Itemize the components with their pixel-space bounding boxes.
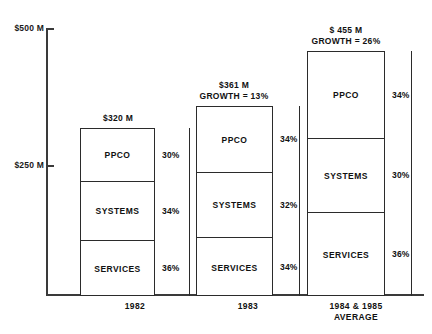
- bar-1982-segment-ppco-label: PPCO: [105, 150, 131, 160]
- bar-1982-total-label: $320 M: [80, 113, 156, 124]
- bar-1984-1985-segment-ppco[interactable]: PPCO: [308, 52, 384, 139]
- bar-1982-segment-systems[interactable]: SYSTEMS: [81, 182, 154, 241]
- bar-1982-segment-services[interactable]: SERVICES: [81, 241, 154, 297]
- bar-1982-percent-column: 30% 34% 36%: [155, 128, 190, 296]
- bar-1984-1985-percent-services: 36%: [392, 249, 410, 259]
- bar-1983-segment-ppco-label: PPCO: [222, 135, 248, 145]
- bar-1983-segment-systems-label: SYSTEMS: [213, 200, 257, 210]
- bar-1983-stack[interactable]: PPCO SYSTEMS SERVICES: [196, 106, 273, 296]
- bar-1983-percent-cell-systems: 32%: [273, 172, 299, 237]
- bar-1982-top-annotation: $320 M: [80, 113, 156, 124]
- category-label-1983: 1983: [196, 301, 300, 312]
- bar-1983-growth-label: GROWTH = 13%: [186, 91, 282, 102]
- bar-1983-percent-systems: 32%: [280, 200, 298, 210]
- bar-1984-1985-segment-services-label: SERVICES: [323, 250, 369, 260]
- bar-1984-1985-segment-services[interactable]: SERVICES: [308, 213, 384, 297]
- y-axis-line: [46, 28, 48, 296]
- category-label-1984-1985-line-1: 1984 & 1985: [300, 301, 412, 312]
- category-label-1982-line-1: 1982: [80, 301, 190, 312]
- bar-1982-percent-services: 36%: [162, 263, 180, 273]
- y-tick-mark-500: [48, 28, 54, 30]
- category-label-1982: 1982: [80, 301, 190, 312]
- bar-1984-1985-total-label: $ 455 M: [297, 25, 395, 36]
- bar-1982-stack[interactable]: PPCO SYSTEMS SERVICES: [80, 128, 155, 296]
- bar-1983-percent-ppco: 34%: [280, 134, 298, 144]
- bar-1983-segment-systems[interactable]: SYSTEMS: [197, 173, 272, 238]
- bar-1984-1985-percent-ppco: 34%: [392, 90, 410, 100]
- bar-1984-1985-stack[interactable]: PPCO SYSTEMS SERVICES: [307, 51, 385, 296]
- bar-1984-1985-growth-label: GROWTH = 26%: [297, 36, 395, 47]
- bar-1984-1985-top-annotation: $ 455 M GROWTH = 26%: [297, 25, 395, 47]
- bar-1984-1985-percent-cell-services: 36%: [385, 212, 411, 296]
- bar-1984-1985-percent-cell-systems: 30%: [385, 138, 411, 212]
- bar-1983-percent-column: 34% 32% 34%: [273, 106, 300, 296]
- y-tick-label-250: $250 M: [14, 160, 44, 170]
- bar-1982-percent-ppco: 30%: [162, 150, 180, 160]
- bar-1984-1985-percent-column: 34% 30% 36%: [385, 51, 412, 296]
- bar-1982-segment-ppco[interactable]: PPCO: [81, 129, 154, 182]
- bar-1984-1985-segment-systems[interactable]: SYSTEMS: [308, 139, 384, 213]
- bar-1982-percent-systems: 34%: [162, 206, 180, 216]
- category-label-1984-1985-line-2: AVERAGE: [300, 312, 412, 323]
- bar-1983-percent-services: 34%: [280, 262, 298, 272]
- bar-1983-segment-ppco[interactable]: PPCO: [197, 107, 272, 173]
- bar-1982-segment-systems-label: SYSTEMS: [96, 206, 140, 216]
- bar-1982-percent-cell-services: 36%: [155, 240, 189, 296]
- bar-1982-segment-services-label: SERVICES: [94, 264, 140, 274]
- bar-1983-segment-services-label: SERVICES: [211, 263, 257, 273]
- y-tick-label-500: $500 M: [14, 23, 44, 33]
- bar-1984-1985-segment-ppco-label: PPCO: [333, 90, 359, 100]
- category-label-1983-line-1: 1983: [196, 301, 300, 312]
- stacked-bar-chart: $500 M $250 M $320 M PPCO SYSTEMS SERVIC…: [0, 0, 432, 334]
- bar-1983-segment-services[interactable]: SERVICES: [197, 238, 272, 297]
- category-label-1984-1985-average: 1984 & 1985 AVERAGE: [300, 301, 412, 323]
- bar-1983-total-label: $361 M: [186, 80, 282, 91]
- bar-1984-1985-percent-cell-ppco: 34%: [385, 51, 411, 138]
- bar-1982-percent-cell-ppco: 30%: [155, 128, 189, 181]
- bar-1983-percent-cell-ppco: 34%: [273, 106, 299, 172]
- bar-1982-percent-cell-systems: 34%: [155, 181, 189, 240]
- bar-1984-1985-percent-systems: 30%: [392, 170, 410, 180]
- bar-1983-percent-cell-services: 34%: [273, 237, 299, 296]
- y-tick-mark-250: [48, 165, 54, 167]
- bar-1984-1985-segment-systems-label: SYSTEMS: [324, 171, 368, 181]
- bar-1983-top-annotation: $361 M GROWTH = 13%: [186, 80, 282, 102]
